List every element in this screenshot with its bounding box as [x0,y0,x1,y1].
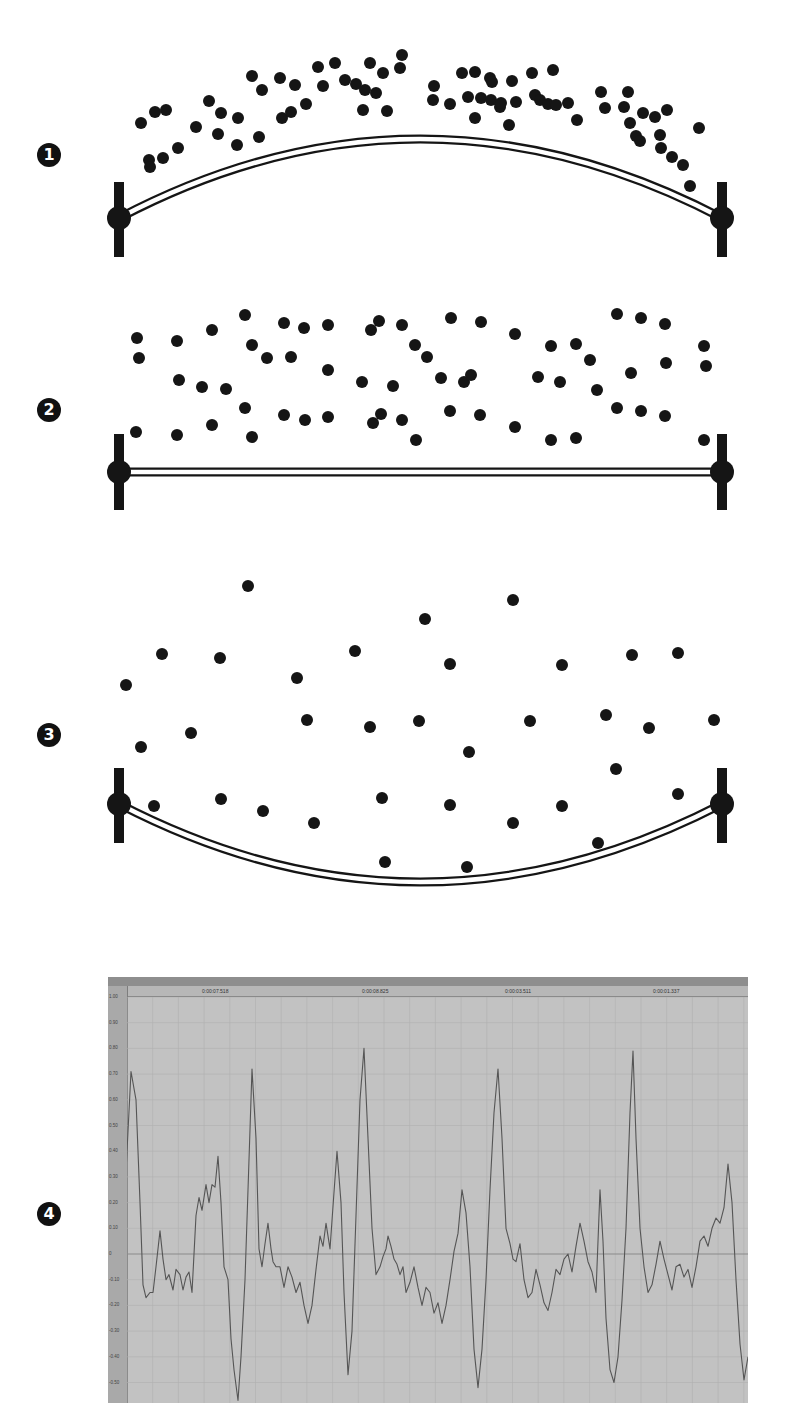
timestamp-label: 0:00:07.518 [202,986,228,996]
particle-dot [185,727,197,739]
particle-dot [256,84,268,96]
particle-dot [532,371,544,383]
particle-dot [322,364,334,376]
particle-dot [461,861,473,873]
particle-dot [698,434,710,446]
particle-dot [278,317,290,329]
y-tick-label: 0 [109,1251,125,1257]
particle-dot [130,426,142,438]
particle-dot [654,129,666,141]
particle-dot [239,309,251,321]
membrane-inner [119,139,722,218]
particle-dot [349,645,361,657]
particle-dot [396,319,408,331]
particle-dot [357,104,369,116]
particle-dot [289,79,301,91]
particle-dot [456,67,468,79]
particle-dot [329,57,341,69]
timestamp-label: 0:00:08.825 [362,986,388,996]
right-node [710,460,734,484]
particle-dot [278,409,290,421]
right-node [710,792,734,816]
particle-dot [684,180,696,192]
particle-dot [261,352,273,364]
particle-dot [300,98,312,110]
particle-dot [556,659,568,671]
particle-dot [659,318,671,330]
membrane-panels [107,49,734,882]
y-tick-label: -0.20 [109,1302,125,1308]
left-node [107,460,131,484]
panel-1 [107,49,734,257]
particle-dot [171,429,183,441]
particle-dot [672,647,684,659]
particle-dot [246,70,258,82]
particle-dot [637,107,649,119]
particle-dot [595,86,607,98]
particle-dot [156,648,168,660]
particle-dot [239,402,251,414]
particle-dot [396,414,408,426]
particle-dot [661,104,673,116]
particle-dot [214,652,226,664]
y-tick-label: 0.60 [109,1097,125,1103]
particle-dot [242,580,254,592]
particle-dot [444,658,456,670]
particle-dot [622,86,634,98]
particle-dot [506,75,518,87]
particle-dot [465,369,477,381]
particle-dot [445,312,457,324]
left-node [107,792,131,816]
particle-dot [133,352,145,364]
particle-dot [428,80,440,92]
y-axis: 1.000.900.800.700.600.500.400.300.200.10… [108,986,128,1403]
particle-dot [507,817,519,829]
panel-3 [107,580,734,882]
particle-dot [364,721,376,733]
particle-dot [394,62,406,74]
y-tick-label: -0.40 [109,1354,125,1360]
waveform-trace [127,1048,748,1400]
particle-dot [469,66,481,78]
membrane-diagram [0,0,787,960]
particle-dot [474,409,486,421]
particle-dot [285,351,297,363]
particle-dot [359,84,371,96]
particle-dot [120,679,132,691]
timestamp-label: 0:00:01.337 [653,986,679,996]
particle-dot [196,381,208,393]
particle-dot [545,340,557,352]
particle-dot [172,142,184,154]
timestamp-label: 0:00:03.511 [505,986,531,996]
particle-dot [144,161,156,173]
particle-dot [356,376,368,388]
membrane-inner [119,804,722,882]
y-tick-label: 1.00 [109,994,125,1000]
particle-dot [135,117,147,129]
particle-dot [135,741,147,753]
particle-dot [666,151,678,163]
particle-dot [190,121,202,133]
particle-dot [547,64,559,76]
particle-dot [611,308,623,320]
particle-dot [599,102,611,114]
particle-dot [507,594,519,606]
particle-dot [232,112,244,124]
particle-dot [427,94,439,106]
particle-dot [373,315,385,327]
particle-dot [463,746,475,758]
particle-dot [206,419,218,431]
particle-dot [421,351,433,363]
particle-dot [693,122,705,134]
particle-dot [550,99,562,111]
particle-dot [708,714,720,726]
particle-dot [649,111,661,123]
particle-dot [160,104,172,116]
particle-dot [370,87,382,99]
particle-dot [312,61,324,73]
particle-dot [526,67,538,79]
particle-dot [592,837,604,849]
particle-dot [444,98,456,110]
particle-dot [215,107,227,119]
particle-dot [672,788,684,800]
